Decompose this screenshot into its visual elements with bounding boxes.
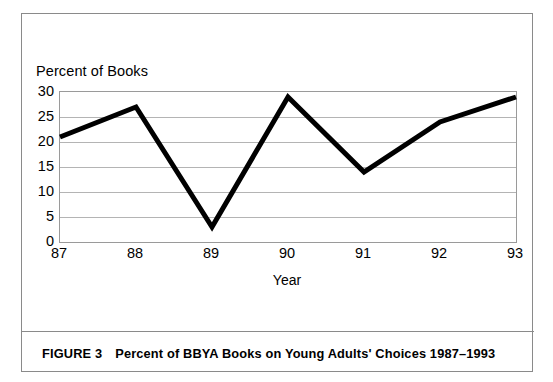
y-tick-label-30: 30	[24, 84, 54, 99]
chart-region: Percent of Books 051015202530 8788899091…	[22, 14, 534, 324]
x-tick-label-92: 92	[419, 246, 459, 261]
y-tick-label-10: 10	[24, 184, 54, 199]
figure-caption-label: FIGURE 3	[42, 346, 102, 361]
y-tick-label-5: 5	[24, 209, 54, 224]
y-axis-title: Percent of Books	[36, 63, 148, 79]
x-axis-title: Year	[59, 272, 515, 288]
plot-area	[59, 91, 517, 243]
x-tick-label-93: 93	[495, 246, 535, 261]
x-tick-label-89: 89	[191, 246, 231, 261]
x-tick-label-90: 90	[267, 246, 307, 261]
line-chart-svg	[60, 92, 516, 242]
y-tick-label-20: 20	[24, 134, 54, 149]
x-axis-tick-labels: 87888990919293	[59, 246, 515, 266]
figure-caption-text: Percent of BBYA Books on Young Adults' C…	[115, 346, 495, 361]
y-axis-tick-labels: 051015202530	[22, 91, 54, 241]
y-tick-label-15: 15	[24, 159, 54, 174]
x-tick-label-87: 87	[39, 246, 79, 261]
data-series-line	[60, 97, 516, 227]
x-tick-label-91: 91	[343, 246, 383, 261]
y-tick-label-25: 25	[24, 109, 54, 124]
figure-caption: FIGURE 3Percent of BBYA Books on Young A…	[42, 346, 495, 361]
figure-frame: Percent of Books 051015202530 8788899091…	[21, 13, 533, 372]
caption-divider	[22, 331, 534, 332]
x-tick-label-88: 88	[115, 246, 155, 261]
